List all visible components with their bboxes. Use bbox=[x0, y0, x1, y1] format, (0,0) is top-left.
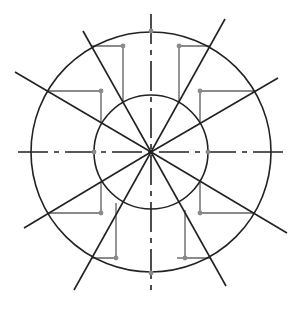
axis-dot bbox=[206, 150, 211, 155]
axis-dot bbox=[92, 150, 97, 155]
center-point bbox=[149, 150, 153, 154]
radial-line-240 bbox=[74, 152, 151, 290]
radial-line-330 bbox=[151, 152, 287, 233]
axis-dot bbox=[149, 271, 154, 276]
construction-dot bbox=[177, 44, 182, 49]
construction-dot bbox=[99, 211, 104, 216]
axis-dot bbox=[149, 29, 154, 34]
radial-line-150 bbox=[15, 72, 151, 152]
construction-dot bbox=[198, 211, 203, 216]
radial-line-210 bbox=[24, 152, 151, 228]
construction-dot bbox=[198, 89, 203, 94]
radial-line-30 bbox=[151, 78, 278, 152]
construction-dot bbox=[114, 256, 119, 261]
construction-dot bbox=[99, 89, 104, 94]
concentric-circle-diagram bbox=[0, 0, 300, 310]
radial-line-60 bbox=[151, 19, 225, 152]
construction-dot bbox=[183, 256, 188, 261]
construction-dot bbox=[121, 44, 126, 49]
